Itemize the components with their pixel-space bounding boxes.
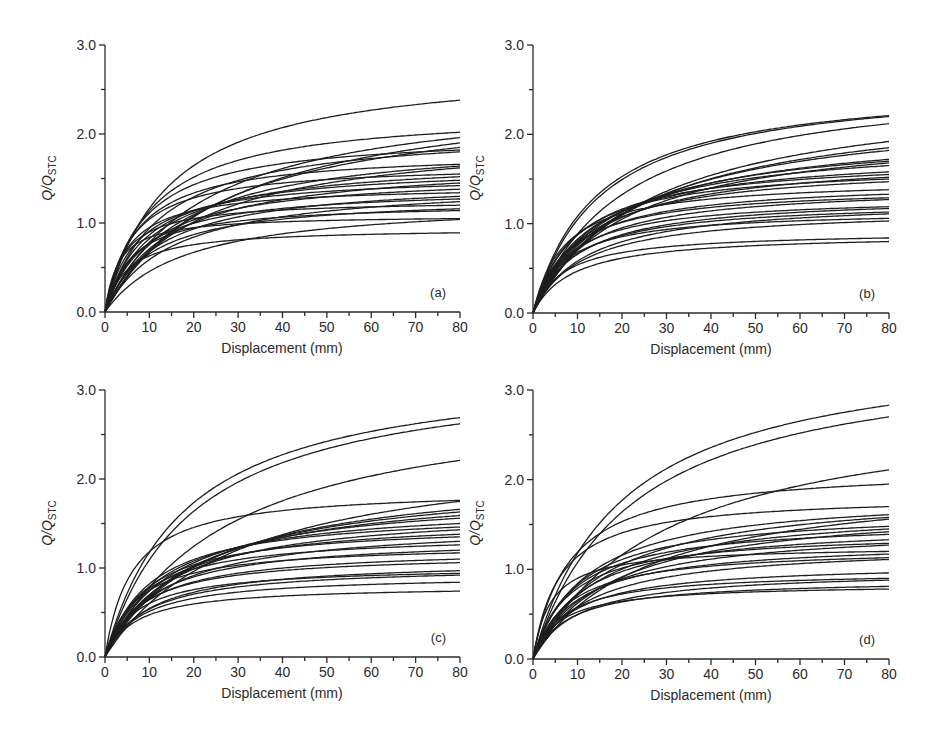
y-tick-label: 1.0 — [77, 560, 97, 576]
load-displacement-curve — [533, 177, 889, 313]
x-tick-label: 50 — [748, 666, 764, 682]
x-tick-label: 20 — [614, 666, 630, 682]
x-tick-label: 50 — [748, 320, 764, 336]
load-displacement-curve — [105, 147, 460, 312]
x-tick-label: 60 — [363, 664, 379, 680]
y-tick-label: 0.0 — [77, 649, 97, 665]
x-tick-label: 50 — [319, 319, 335, 335]
y-tick-label: 2.0 — [77, 471, 97, 487]
x-tick-label: 70 — [837, 320, 853, 336]
x-tick-label: 70 — [837, 666, 853, 682]
y-tick-label: 2.0 — [505, 126, 525, 142]
load-displacement-curve — [533, 117, 889, 314]
y-tick-label: 1.0 — [505, 216, 525, 232]
x-tick-label: 0 — [529, 666, 537, 682]
load-displacement-curve — [105, 545, 460, 657]
load-displacement-curve — [533, 242, 889, 314]
y-tick-label: 3.0 — [505, 37, 525, 53]
x-tick-label: 60 — [792, 666, 808, 682]
curves-d — [533, 405, 889, 659]
x-tick-label: 20 — [614, 320, 630, 336]
x-tick-label: 0 — [529, 320, 537, 336]
x-tick-label: 10 — [570, 320, 586, 336]
y-tick-label: 1.0 — [77, 215, 97, 231]
y-tick-label: 2.0 — [77, 126, 97, 142]
panel-a: 010203040506070800.01.02.03.0 (a) Displa… — [39, 37, 468, 356]
panel-label-b: (b) — [859, 286, 875, 301]
y-axis-title-a: Q/QSTC — [39, 155, 58, 201]
x-axis-title-a: Displacement (mm) — [221, 340, 342, 356]
curves-b — [533, 116, 889, 313]
x-tick-label: 10 — [142, 319, 158, 335]
x-tick-label: 80 — [881, 320, 897, 336]
x-axis-title-d: Displacement (mm) — [650, 687, 771, 703]
x-tick-label: 40 — [275, 664, 291, 680]
x-tick-label: 20 — [186, 319, 202, 335]
curves-c — [105, 418, 460, 657]
x-tick-label: 20 — [186, 664, 202, 680]
x-tick-label: 60 — [363, 319, 379, 335]
panel-label-a: (a) — [430, 285, 446, 300]
figure-canvas: 010203040506070800.01.02.03.0 (a) Displa… — [0, 0, 936, 747]
x-tick-label: 30 — [659, 666, 675, 682]
curves-a — [105, 100, 460, 312]
load-displacement-curve — [105, 591, 460, 657]
y-axis-title-c: Q/QSTC — [39, 500, 58, 546]
x-tick-label: 10 — [570, 666, 586, 682]
y-tick-label: 0.0 — [505, 651, 525, 667]
y-tick-label: 1.0 — [505, 561, 525, 577]
x-axis-title-c: Displacement (mm) — [221, 685, 342, 701]
x-tick-label: 30 — [659, 320, 675, 336]
panel-c: 010203040506070800.01.02.03.0 (c) Displa… — [39, 382, 468, 701]
load-displacement-curve — [533, 194, 889, 313]
load-displacement-curve — [105, 460, 460, 657]
y-tick-label: 2.0 — [505, 472, 525, 488]
x-tick-label: 80 — [881, 666, 897, 682]
y-tick-label: 0.0 — [505, 305, 525, 321]
load-displacement-curve — [105, 219, 460, 312]
x-tick-label: 40 — [703, 666, 719, 682]
load-displacement-curve — [533, 551, 889, 659]
x-tick-label: 40 — [275, 319, 291, 335]
load-displacement-curve — [105, 582, 460, 657]
x-tick-label: 30 — [230, 319, 246, 335]
x-tick-label: 0 — [101, 319, 109, 335]
load-displacement-curve — [105, 189, 460, 312]
load-displacement-curve — [533, 554, 889, 659]
panel-b: 010203040506070800.01.02.03.0 (b) Displa… — [467, 37, 897, 357]
load-displacement-curve — [105, 209, 460, 312]
y-tick-label: 3.0 — [77, 382, 97, 398]
panel-label-d: (d) — [859, 632, 875, 647]
panel-label-c: (c) — [431, 630, 446, 645]
load-displacement-curve — [105, 199, 460, 312]
x-tick-label: 50 — [319, 664, 335, 680]
x-tick-label: 30 — [230, 664, 246, 680]
y-tick-label: 3.0 — [77, 37, 97, 53]
x-tick-label: 60 — [792, 320, 808, 336]
load-displacement-curve — [105, 202, 460, 312]
panel-d: 010203040506070800.01.02.03.0 (d) Displa… — [467, 382, 897, 703]
x-axis-title-b: Displacement (mm) — [650, 341, 771, 357]
x-tick-label: 80 — [452, 664, 468, 680]
y-axis-title-d: Q/QSTC — [467, 500, 486, 546]
x-tick-label: 70 — [408, 664, 424, 680]
x-tick-label: 0 — [101, 664, 109, 680]
x-tick-label: 40 — [703, 320, 719, 336]
x-tick-label: 80 — [452, 319, 468, 335]
y-tick-label: 0.0 — [77, 304, 97, 320]
x-tick-label: 70 — [408, 319, 424, 335]
y-axis-title-b: Q/QSTC — [467, 155, 486, 201]
y-tick-label: 3.0 — [505, 382, 525, 398]
x-tick-label: 10 — [142, 664, 158, 680]
axes-c: 010203040506070800.01.02.03.0 — [77, 382, 468, 680]
